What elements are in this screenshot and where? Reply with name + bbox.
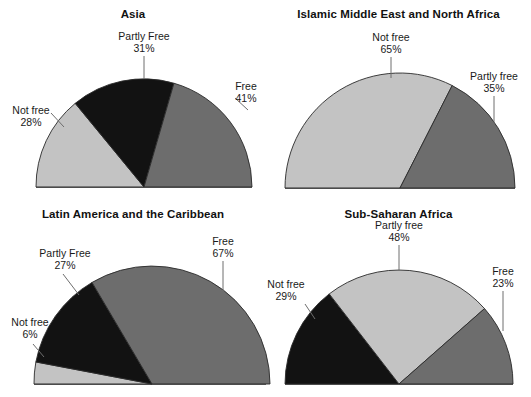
latam-label-not-free: Not free 6% <box>1 316 59 340</box>
figure-canvas: Asia Partly Free 31% Not free 28% Free 4… <box>0 0 531 397</box>
ssa-value-partly-free: 48% <box>363 231 435 243</box>
mena-label-not-free-text: Not free <box>372 31 409 43</box>
latam-value-partly-free: 27% <box>22 259 108 271</box>
asia-label-not-free: Not free 28% <box>2 104 60 128</box>
asia-value-free: 41% <box>228 92 264 104</box>
latam-label-partly-free-text: Partly Free <box>39 247 90 259</box>
ssa-label-partly-free: Partly free 48% <box>363 219 435 243</box>
ssa-label-partly-free-text: Partly free <box>375 219 423 231</box>
asia-label-partly-free-text: Partly Free <box>118 30 169 42</box>
chart-panel-asia: Asia Partly Free 31% Not free 28% Free 4… <box>0 0 266 199</box>
latam-label-not-free-text: Not free <box>11 316 48 328</box>
chart-panel-latam: Latin America and the Caribbean Partly F… <box>0 199 266 397</box>
latam-value-free: 67% <box>205 247 241 259</box>
asia-label-partly-free: Partly Free 31% <box>99 30 189 54</box>
mena-value-not-free: 65% <box>359 43 423 55</box>
ssa-label-not-free-text: Not free <box>267 278 304 290</box>
latam-leader-partly-free <box>63 274 79 295</box>
ssa-value-not-free: 29% <box>257 290 315 302</box>
latam-label-free-text: Free <box>212 235 234 247</box>
chart-panel-ssa: Sub-Saharan Africa Partly free 48% Not f… <box>266 199 531 397</box>
asia-value-partly-free: 31% <box>99 42 189 54</box>
mena-label-not-free: Not free 65% <box>359 31 423 55</box>
asia-value-not-free: 28% <box>2 116 60 128</box>
latam-label-free: Free 67% <box>205 235 241 259</box>
ssa-label-free: Free 23% <box>485 265 521 289</box>
latam-semicircle-pie <box>0 199 266 397</box>
chart-panel-mena: Islamic Middle East and North Africa Not… <box>266 0 531 199</box>
latam-label-partly-free: Partly Free 27% <box>22 247 108 271</box>
mena-semicircle-pie <box>266 0 531 199</box>
mena-label-partly-free: Partly free 35% <box>458 70 530 94</box>
asia-label-free: Free 41% <box>228 80 264 104</box>
latam-value-not-free: 6% <box>1 328 59 340</box>
ssa-label-not-free: Not free 29% <box>257 278 315 302</box>
mena-label-partly-free-text: Partly free <box>470 70 518 82</box>
ssa-value-free: 23% <box>485 277 521 289</box>
mena-value-partly-free: 35% <box>458 82 530 94</box>
ssa-label-free-text: Free <box>492 265 514 277</box>
asia-label-not-free-text: Not free <box>12 104 49 116</box>
asia-label-free-text: Free <box>235 80 257 92</box>
